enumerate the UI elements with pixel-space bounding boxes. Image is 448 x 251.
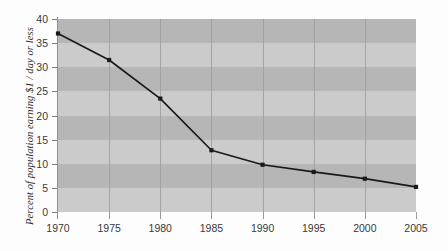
x-tickmark [109,212,110,219]
line-chart: Percent of population earning $1 / day o… [0,0,448,251]
tickmark-layer [0,0,448,251]
y-tickmark [52,188,57,189]
y-tickmark [52,67,57,68]
y-tickmark [52,19,57,20]
x-tickmark [314,212,315,219]
y-tickmark [52,43,57,44]
y-tickmark [52,116,57,117]
x-tickmark [416,212,417,219]
x-tickmark [365,212,366,219]
y-tickmark [52,164,57,165]
x-tickmark [211,212,212,219]
y-tickmark [52,140,57,141]
y-tickmark [52,91,57,92]
y-tickmark [52,212,57,213]
x-tickmark [160,212,161,219]
x-tickmark [263,212,264,219]
